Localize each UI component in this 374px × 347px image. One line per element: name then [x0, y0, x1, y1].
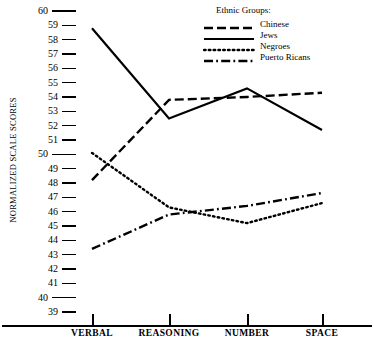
legend-entries: ChineseJewsNegroesPuerto Ricans	[203, 18, 373, 62]
legend-item-chinese: Chinese	[203, 18, 373, 29]
x-tick-mark	[247, 314, 249, 325]
legend-item-negroes: Negroes	[203, 40, 373, 51]
legend-label: Negroes	[255, 41, 290, 51]
legend-label: Jews	[255, 30, 278, 40]
x-tick-label: NUMBER	[225, 328, 270, 338]
x-tick-label: SPACE	[306, 328, 338, 338]
legend-swatch	[203, 30, 255, 40]
x-tick-mark	[92, 314, 94, 325]
legend-item-puerto-ricans: Puerto Ricans	[203, 51, 373, 62]
legend-title: Ethnic Groups:	[216, 5, 373, 15]
x-tick-label: VERBAL	[71, 328, 113, 338]
line-chart: NORMALIZED SCALE SCORES 6059585756555453…	[0, 0, 374, 347]
legend-item-jews: Jews	[203, 29, 373, 40]
x-tick-mark	[322, 314, 324, 325]
legend-swatch	[203, 41, 255, 51]
legend-swatch	[203, 52, 255, 62]
legend-swatch	[203, 19, 255, 29]
legend-label: Chinese	[255, 19, 289, 29]
legend: Ethnic Groups: ChineseJewsNegroesPuerto …	[203, 5, 373, 62]
x-tick-mark	[169, 314, 171, 325]
legend-label: Puerto Ricans	[255, 52, 310, 62]
x-tick-label: REASONING	[138, 328, 199, 338]
